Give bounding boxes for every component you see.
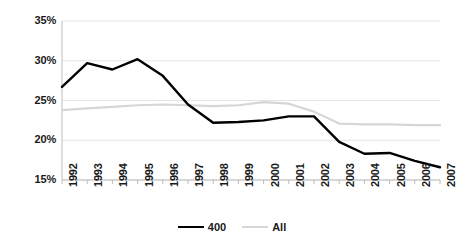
x-tick-label: 2003 bbox=[344, 163, 356, 187]
x-tick-label: 1996 bbox=[168, 163, 180, 187]
x-tick-label: 1995 bbox=[143, 163, 155, 187]
x-tick-label: 2000 bbox=[269, 163, 281, 187]
x-tick-label: 1997 bbox=[193, 163, 205, 187]
line-chart: 35%30%25%20%15% 199219931994199519961997… bbox=[0, 0, 464, 251]
x-tick-label: 1994 bbox=[117, 163, 129, 187]
y-tick-label: 35% bbox=[16, 14, 56, 26]
x-tick-label: 1998 bbox=[218, 163, 230, 187]
legend-label: 400 bbox=[208, 221, 226, 233]
legend-item-All[interactable]: All bbox=[242, 221, 286, 233]
x-tick-label: 2002 bbox=[319, 163, 331, 187]
gridlines bbox=[62, 21, 440, 180]
x-tick-label: 2006 bbox=[420, 163, 432, 187]
legend-line-swatch-icon bbox=[242, 226, 268, 228]
y-tick-label: 25% bbox=[16, 94, 56, 106]
y-tick-label: 20% bbox=[16, 133, 56, 145]
legend-line-swatch-icon bbox=[178, 226, 204, 228]
x-tick-label: 2007 bbox=[445, 163, 457, 187]
chart-legend: 400All bbox=[0, 221, 464, 233]
x-tick-label: 1992 bbox=[67, 163, 79, 187]
legend-item-400[interactable]: 400 bbox=[178, 221, 226, 233]
series-400-line bbox=[62, 59, 440, 167]
series-line-400 bbox=[62, 59, 440, 167]
x-tick-label: 2005 bbox=[395, 163, 407, 187]
y-tick-label: 15% bbox=[16, 173, 56, 185]
legend-label: All bbox=[272, 221, 286, 233]
y-tick-label: 30% bbox=[16, 54, 56, 66]
x-tick-label: 2004 bbox=[369, 163, 381, 187]
plot-area bbox=[0, 0, 464, 251]
x-tick-label: 1993 bbox=[92, 163, 104, 187]
x-tick-label: 2001 bbox=[294, 163, 306, 187]
x-tick-label: 1999 bbox=[243, 163, 255, 187]
